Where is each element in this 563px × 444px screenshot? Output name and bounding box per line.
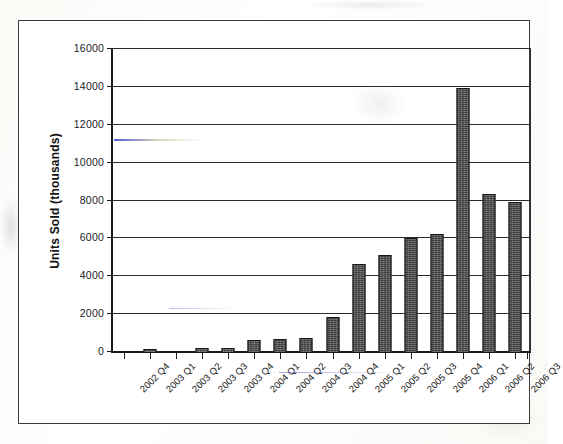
bar[interactable] (352, 264, 365, 353)
bar[interactable] (456, 88, 469, 353)
bar[interactable] (300, 338, 313, 353)
y-axis-title-text: Units Sold (thousands) (48, 133, 62, 269)
bar-slot (215, 48, 241, 353)
bar-slot (189, 48, 215, 353)
bar-slot (267, 48, 293, 353)
y-axis-tick-label: 12000 (74, 118, 104, 130)
x-axis-labels: 2002 Q42003 Q12003 Q22003 Q32003 Q42004 … (111, 359, 531, 429)
y-axis-tick-label: 10000 (74, 156, 104, 168)
bar-slot (398, 48, 424, 353)
y-axis-tick-label: 16000 (74, 42, 104, 54)
y-axis-tick-label: 6000 (80, 231, 104, 243)
bar-slot (450, 48, 476, 353)
y-axis-tick-label: 0 (98, 345, 104, 357)
bar-slot (372, 48, 398, 353)
bar-slot (293, 48, 319, 353)
bar-slot (502, 48, 528, 353)
bar[interactable] (378, 255, 391, 353)
chart-frame: Units Sold (thousands) 16000140001200010… (18, 20, 530, 424)
bar-slot (163, 48, 189, 353)
bar-slot (346, 48, 372, 353)
bar[interactable] (430, 234, 443, 353)
bar-slot (476, 48, 502, 353)
y-axis-title: Units Sold (thousands) (45, 48, 65, 353)
bar-slot (137, 48, 163, 353)
bar[interactable] (508, 202, 521, 353)
y-axis-tick-label: 4000 (80, 269, 104, 281)
bar[interactable] (404, 238, 417, 353)
bar[interactable] (248, 340, 261, 353)
bar[interactable] (326, 317, 339, 353)
bar-slot (424, 48, 450, 353)
y-axis-tick-label: 14000 (74, 80, 104, 92)
y-axis-tick-label: 2000 (80, 307, 104, 319)
y-axis-tick-label: 8000 (80, 194, 104, 206)
bar-slot (111, 48, 137, 353)
bars-layer (111, 48, 531, 353)
bar-slot (241, 48, 267, 353)
bar-slot (320, 48, 346, 353)
bar[interactable] (482, 194, 495, 353)
bar[interactable] (274, 339, 287, 353)
